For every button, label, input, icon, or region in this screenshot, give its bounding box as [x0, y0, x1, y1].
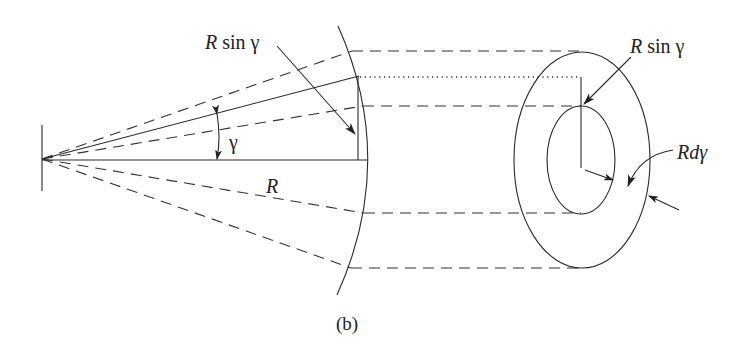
rdgamma-curved-arrow	[628, 150, 673, 186]
ray-bottom-dashed	[42, 159, 351, 268]
rdgamma-label: Rdγ	[676, 141, 708, 164]
inner-radius-arrow	[585, 170, 613, 180]
right-rsin-pointer-arrow	[584, 57, 631, 104]
left-rsin-label: R sin γ	[204, 31, 260, 54]
ray-gamma-solid	[42, 76, 359, 159]
radius-label: R	[265, 175, 278, 197]
outer-edge-arrow	[649, 196, 679, 210]
figure-caption: (b)	[336, 313, 358, 335]
left-rsin-pointer-arrow	[277, 46, 355, 134]
diagram-canvas: R sin γ γ R R sin γ Rdγ (b)	[0, 0, 749, 359]
right-rsin-label: R sin γ	[629, 35, 685, 58]
ray-lower-dashed	[42, 159, 364, 213]
ray-upper-dashed	[42, 106, 363, 159]
outer-ellipse	[514, 52, 650, 268]
angle-gamma-label: γ	[228, 131, 238, 154]
ray-top-dashed	[42, 51, 352, 159]
angle-gamma-arrow	[217, 114, 219, 159]
